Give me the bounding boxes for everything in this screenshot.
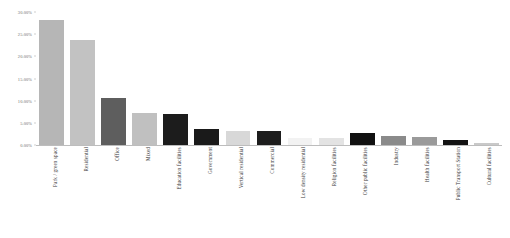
y-axis-tick-label: 5.00% bbox=[20, 120, 32, 125]
bar-slot bbox=[319, 12, 344, 145]
bar[interactable] bbox=[350, 133, 375, 145]
x-axis-label-slot: Health facilities bbox=[409, 147, 440, 238]
y-axis-tick-label: 30.00% bbox=[18, 10, 32, 15]
bar[interactable] bbox=[163, 114, 188, 145]
y-axis-tick-label: 25.00% bbox=[18, 32, 32, 37]
bar-slot bbox=[132, 12, 157, 145]
x-axis-label: Vertical residential bbox=[238, 147, 244, 188]
x-axis-label-slot: Office bbox=[98, 147, 129, 238]
bar-slot bbox=[39, 12, 64, 145]
y-axis-tick-label: 15.00% bbox=[18, 76, 32, 81]
y-axis-tick-label: 20.00% bbox=[18, 54, 32, 59]
x-axis-label: Residential bbox=[83, 147, 89, 172]
bar[interactable] bbox=[474, 143, 499, 145]
x-axis-label: Health facilities bbox=[424, 147, 430, 182]
bar-slot bbox=[101, 12, 126, 145]
bar-slot bbox=[194, 12, 219, 145]
x-axis-label-slot: Park / green space bbox=[36, 147, 67, 238]
bar[interactable] bbox=[288, 138, 313, 145]
bar-slot bbox=[288, 12, 313, 145]
bar[interactable] bbox=[443, 140, 468, 145]
x-axis-label-slot: Education facilities bbox=[160, 147, 191, 238]
bar-slot bbox=[163, 12, 188, 145]
bar[interactable] bbox=[70, 40, 95, 146]
bar-slot bbox=[381, 12, 406, 145]
bar-slot bbox=[350, 12, 375, 145]
x-axis-label-slot: Government bbox=[191, 147, 222, 238]
x-axis-label: Education facilities bbox=[176, 147, 182, 189]
x-axis-label: Mixed bbox=[145, 147, 151, 161]
x-axis-label-slot: Low density residential bbox=[285, 147, 316, 238]
bar[interactable] bbox=[412, 137, 437, 145]
bar[interactable] bbox=[101, 98, 126, 145]
x-axis-label: Public Transport Station bbox=[455, 147, 461, 200]
x-axis-label-slot: Other public facilities bbox=[347, 147, 378, 238]
y-axis-tick-label: 10.00% bbox=[18, 98, 32, 103]
x-axis-label: Government bbox=[207, 147, 213, 174]
bar[interactable] bbox=[319, 138, 344, 145]
bar-series bbox=[36, 12, 502, 145]
x-axis-label-slot: Religion facilities bbox=[316, 147, 347, 238]
y-axis-tick-label: 0.00% bbox=[20, 143, 32, 148]
x-axis-label-slot: Vertical residential bbox=[222, 147, 253, 238]
x-axis-label: Religion facilities bbox=[331, 147, 337, 186]
bar[interactable] bbox=[226, 131, 251, 145]
bar[interactable] bbox=[257, 131, 282, 145]
bar-slot bbox=[70, 12, 95, 145]
x-axis-label-slot: Industry bbox=[378, 147, 409, 238]
bar[interactable] bbox=[194, 129, 219, 145]
x-axis-label-slot: Public Transport Station bbox=[440, 147, 471, 238]
bar-chart: 0.00%5.00%10.00%15.00%20.00%25.00%30.00%… bbox=[0, 0, 510, 238]
bar[interactable] bbox=[132, 113, 157, 145]
x-axis-label-slot: Cultural facilities bbox=[471, 147, 502, 238]
bar-slot bbox=[412, 12, 437, 145]
bar-slot bbox=[443, 12, 468, 145]
x-axis-label: Industry bbox=[393, 147, 399, 165]
x-axis-labels: Park / green spaceResidentialOfficeMixed… bbox=[36, 147, 502, 238]
x-axis-label: Other public facilities bbox=[362, 147, 368, 195]
x-axis-label-slot: Mixed bbox=[129, 147, 160, 238]
x-axis-label: Office bbox=[114, 147, 120, 161]
bar-slot bbox=[257, 12, 282, 145]
bar-slot bbox=[226, 12, 251, 145]
y-axis: 0.00%5.00%10.00%15.00%20.00%25.00%30.00% bbox=[0, 0, 36, 160]
bar-slot bbox=[474, 12, 499, 145]
x-axis-label: Cultural facilities bbox=[486, 147, 492, 185]
bar[interactable] bbox=[381, 136, 406, 145]
x-axis-label-slot: Residential bbox=[67, 147, 98, 238]
bar[interactable] bbox=[39, 20, 64, 145]
x-axis-label-slot: Commercial bbox=[253, 147, 284, 238]
x-axis-label: Park / green space bbox=[52, 147, 58, 187]
x-axis-label: Commercial bbox=[269, 147, 275, 174]
x-axis-label: Low density residential bbox=[300, 147, 306, 198]
